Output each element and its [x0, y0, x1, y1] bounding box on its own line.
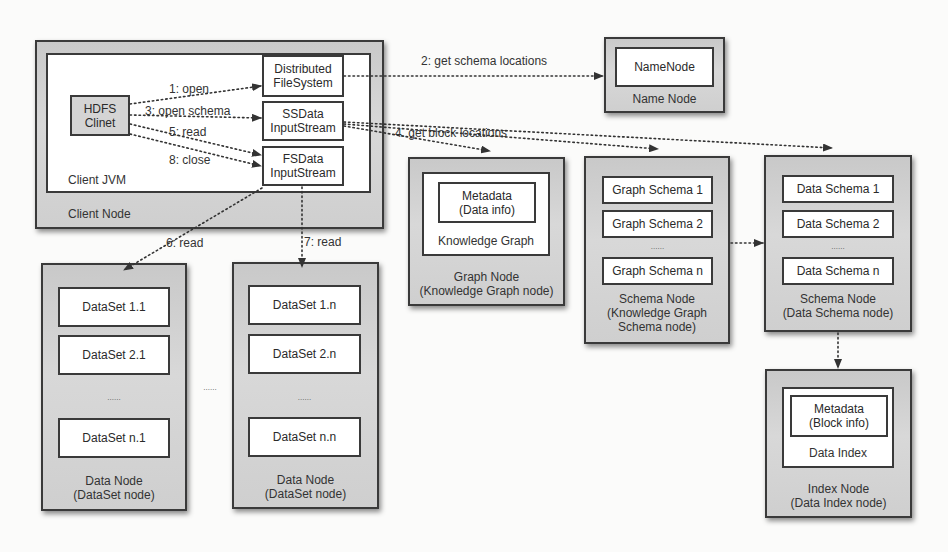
- edge-label-open: 1: open: [169, 82, 209, 96]
- edge-label-close: 8: close: [169, 153, 210, 167]
- edge-label-read-7: 7: read: [304, 235, 341, 249]
- edge-label-read-6: 6: read: [166, 236, 203, 250]
- edge-label-get-schema-locations: 2: get schema locations: [421, 54, 547, 68]
- edge-label-open-schema: 3: open schema: [145, 104, 230, 118]
- edges-layer: [0, 0, 948, 552]
- edge-label-read-5: 5: read: [169, 125, 206, 139]
- edge-read-6: [124, 188, 262, 270]
- edge-label-get-block-locations: 4. get block locations: [395, 126, 507, 140]
